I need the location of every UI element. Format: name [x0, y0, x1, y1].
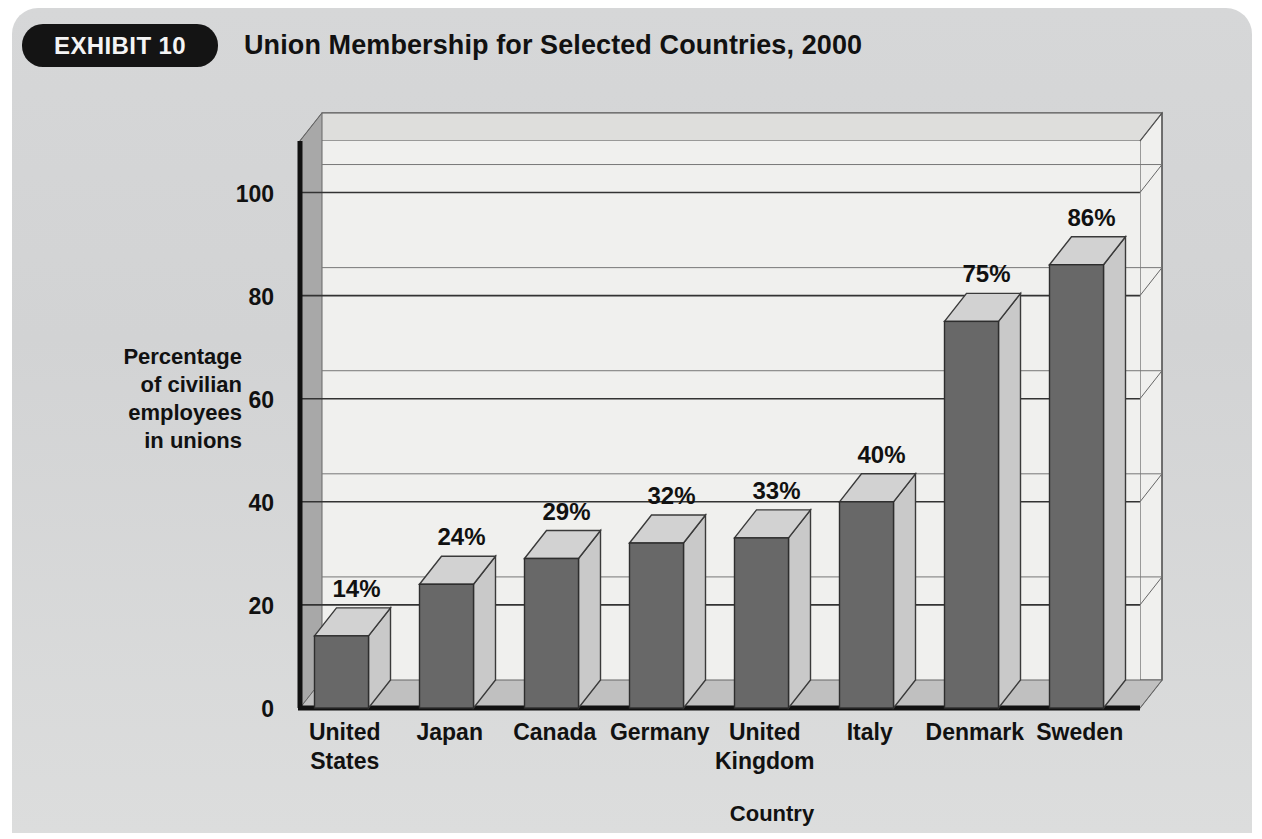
bar-front-face: [630, 543, 684, 708]
bar-side-face: [894, 474, 916, 708]
bar-value-label: 75%: [962, 260, 1010, 287]
bar[interactable]: [1050, 237, 1126, 708]
exhibit-badge-label: EXHIBIT 10: [54, 32, 186, 60]
x-axis-category-label: Sweden: [1036, 719, 1123, 745]
x-axis-category-label: Kingdom: [715, 748, 815, 774]
page-title: Union Membership for Selected Countries,…: [244, 30, 862, 61]
bar-front-face: [945, 321, 999, 708]
bar[interactable]: [630, 515, 706, 708]
y-axis-title-line: in unions: [144, 428, 242, 453]
bar-value-label: 29%: [542, 498, 590, 525]
bar-value-label: 40%: [857, 441, 905, 468]
bar-side-face: [999, 293, 1021, 708]
bar[interactable]: [420, 556, 496, 708]
x-axis-category-label: United: [729, 719, 801, 745]
bar[interactable]: [945, 293, 1021, 708]
x-axis-category-label: Italy: [847, 719, 893, 745]
bar-front-face: [735, 538, 789, 708]
y-axis-tick-label: 60: [248, 387, 274, 413]
bar-front-face: [525, 559, 579, 708]
bar-value-label: 14%: [332, 575, 380, 602]
y-axis-tick-label: 100: [236, 181, 274, 207]
bar[interactable]: [315, 608, 391, 708]
x-axis-title: Country: [730, 801, 815, 826]
y-axis-tick-label: 80: [248, 284, 274, 310]
y-axis-title: Percentageof civilianemployeesin unions: [123, 344, 242, 453]
bar[interactable]: [840, 474, 916, 708]
x-axis-category-label: Germany: [610, 719, 710, 745]
bar-chart-figure: 02040608010014%UnitedStates24%Japan29%Ca…: [12, 82, 1252, 832]
x-axis-category-label: United: [309, 719, 381, 745]
bar-value-label: 33%: [752, 477, 800, 504]
y-axis-tick-label: 0: [261, 696, 274, 722]
chart-canvas: 02040608010014%UnitedStates24%Japan29%Ca…: [12, 82, 1252, 832]
x-axis-category-label: Canada: [513, 719, 596, 745]
y-axis-title-line: employees: [128, 400, 242, 425]
bar-side-face: [789, 510, 811, 708]
y-axis-title-line: Percentage: [123, 344, 242, 369]
bar-value-label: 24%: [437, 523, 485, 550]
bar[interactable]: [735, 510, 811, 708]
exhibit-card: EXHIBIT 10 Union Membership for Selected…: [12, 8, 1252, 833]
bar-side-face: [579, 531, 601, 708]
exhibit-number-badge: EXHIBIT 10: [22, 24, 218, 67]
bar-value-label: 32%: [647, 482, 695, 509]
plot-ceiling: [300, 113, 1162, 141]
bar-value-label: 86%: [1067, 204, 1115, 231]
x-axis-category-label: Denmark: [926, 719, 1025, 745]
bar-front-face: [1050, 265, 1104, 708]
bar[interactable]: [525, 531, 601, 708]
plot-left-wall: [300, 113, 322, 708]
x-axis-category-label: Japan: [416, 719, 482, 745]
y-axis-tick-label: 20: [248, 593, 274, 619]
bar-front-face: [840, 502, 894, 708]
bar-side-face: [684, 515, 706, 708]
x-axis-category-label: States: [310, 748, 379, 774]
bar-side-face: [1104, 237, 1126, 708]
y-axis-tick-label: 40: [248, 490, 274, 516]
y-axis-title-line: of civilian: [141, 372, 242, 397]
bar-front-face: [420, 584, 474, 708]
bar-front-face: [315, 636, 369, 708]
